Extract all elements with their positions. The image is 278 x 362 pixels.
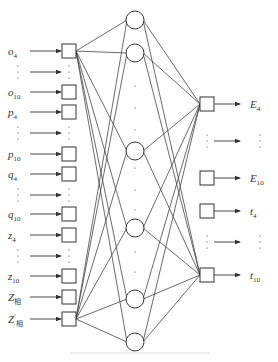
- box-ellipsis: [206, 247, 207, 248]
- input-label-Zxiang: Z相: [8, 291, 21, 306]
- output-box: [200, 204, 214, 218]
- input-ellipsis: [17, 65, 69, 78]
- input-label-o10: o10: [8, 86, 21, 101]
- connection-line: [76, 20, 127, 51]
- connection-line: [76, 51, 127, 228]
- label-ellipsis: [259, 140, 260, 141]
- connection-line: [143, 275, 200, 299]
- box-ellipsis: [68, 194, 69, 195]
- output-node-t10: t10: [200, 268, 261, 284]
- output-label-t10: t10: [250, 269, 261, 284]
- connection-line: [143, 275, 200, 342]
- output-node-E4: E4: [200, 97, 261, 113]
- box-ellipsis: [206, 140, 207, 141]
- connection-line: [76, 299, 127, 319]
- label-ellipsis: [259, 235, 260, 236]
- label-ellipsis: [17, 249, 18, 250]
- input-box: [62, 85, 76, 99]
- label-ellipsis: [259, 146, 260, 147]
- hidden-ellipsis: [134, 209, 135, 210]
- label-ellipsis: [17, 132, 18, 133]
- connection-line: [143, 104, 200, 151]
- input-label-p4: p4: [7, 106, 18, 121]
- output-node-E10: E10: [200, 171, 264, 187]
- input-label-z10: z10: [7, 270, 20, 285]
- connection-line: [76, 319, 127, 342]
- output-ellipsis: [206, 134, 260, 147]
- input-node-o10: o10: [8, 85, 76, 101]
- output-layer: E4E10t4t10: [200, 97, 264, 284]
- connection-line: [76, 51, 127, 53]
- box-ellipsis: [68, 132, 69, 133]
- input-node-z4: z4: [7, 228, 76, 244]
- output-label-t4: t4: [250, 205, 257, 220]
- connection-line: [143, 53, 200, 275]
- label-ellipsis: [17, 138, 18, 139]
- connection-line: [143, 20, 200, 275]
- input-label-z4: z4: [7, 229, 16, 244]
- box-ellipsis: [68, 249, 69, 250]
- connection-line: [143, 104, 200, 342]
- box-ellipsis: [68, 255, 69, 256]
- hidden-node-h2: [126, 44, 144, 62]
- input-box: [62, 147, 76, 161]
- input-node-z10: z10: [7, 269, 76, 285]
- input-ellipsis: [17, 126, 69, 139]
- label-ellipsis: [17, 65, 18, 66]
- input-label-o4: o4: [8, 45, 18, 60]
- output-ellipsis: [206, 235, 260, 248]
- input-node-Zxiang: Z相: [8, 290, 76, 306]
- box-ellipsis: [68, 77, 69, 78]
- output-node-t4: t4: [200, 204, 257, 220]
- input-node-p4: p4: [7, 105, 76, 121]
- hidden-ellipsis: [134, 189, 135, 190]
- input-box: [62, 167, 76, 181]
- input-label-q4: q4: [8, 168, 18, 183]
- box-ellipsis: [206, 134, 207, 135]
- hidden-node-h6: [126, 333, 144, 351]
- connection-line: [143, 104, 200, 228]
- box-ellipsis: [68, 138, 69, 139]
- hidden-layer: [126, 11, 144, 351]
- input-box: [62, 44, 76, 58]
- input-layer: o4o10p4p10q4q10z4z10Z相Z′相: [7, 44, 76, 328]
- label-ellipsis: [259, 134, 260, 135]
- input-label-q10: q10: [8, 208, 21, 223]
- hidden-ellipsis: [134, 107, 135, 108]
- label-ellipsis: [17, 194, 18, 195]
- connection-line: [143, 20, 200, 104]
- box-ellipsis: [206, 241, 207, 242]
- box-ellipsis: [68, 65, 69, 66]
- label-ellipsis: [17, 126, 18, 127]
- hidden-node-h1: [126, 11, 144, 29]
- label-ellipsis: [17, 71, 18, 72]
- hidden-ellipsis: [134, 271, 135, 272]
- hidden-ellipsis: [134, 129, 135, 130]
- label-ellipsis: [17, 188, 18, 189]
- hidden-ellipsis: [134, 85, 135, 86]
- input-node-Zxiang2: Z′相: [8, 312, 76, 328]
- box-ellipsis: [206, 235, 207, 236]
- output-label-E10: E10: [249, 172, 264, 187]
- box-ellipsis: [68, 188, 69, 189]
- output-box: [200, 268, 214, 282]
- box-ellipsis: [68, 200, 69, 201]
- input-box: [62, 312, 76, 326]
- output-box: [200, 97, 214, 111]
- hidden-node-h4: [126, 219, 144, 237]
- hidden-ellipsis: [134, 251, 135, 252]
- connection-line: [143, 151, 200, 275]
- connection-line: [143, 104, 200, 299]
- neural-network-diagram: o4o10p4p10q4q10z4z10Z相Z′相 E4E10t4t10: [0, 0, 278, 362]
- input-node-q10: q10: [8, 207, 76, 223]
- hidden-node-h5: [126, 290, 144, 308]
- label-ellipsis: [17, 261, 18, 262]
- output-label-E4: E4: [249, 98, 261, 113]
- input-ellipsis: [17, 249, 69, 262]
- label-ellipsis: [17, 200, 18, 201]
- box-ellipsis: [68, 261, 69, 262]
- input-box: [62, 228, 76, 242]
- box-ellipsis: [206, 146, 207, 147]
- caption-faint-line: [70, 352, 210, 354]
- box-ellipsis: [68, 71, 69, 72]
